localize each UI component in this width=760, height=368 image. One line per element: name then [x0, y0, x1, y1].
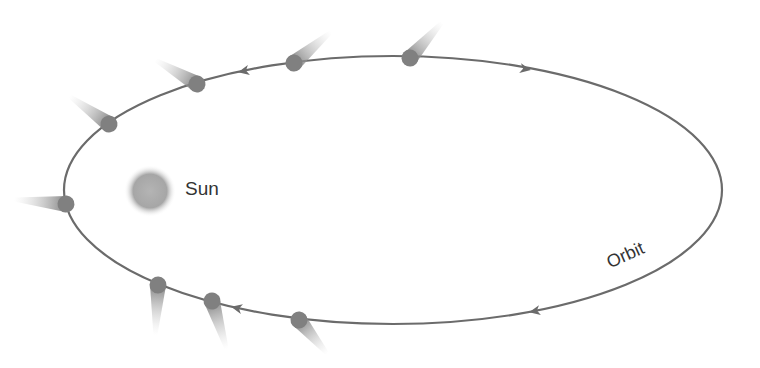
- comet-icon: [282, 26, 336, 75]
- orbit-direction-arrows: [230, 63, 541, 317]
- orbit-diagram: [0, 0, 760, 368]
- comet-icon: [65, 90, 121, 136]
- comet-icon: [13, 191, 75, 213]
- comet-icon: [398, 17, 448, 70]
- comet-icon: [287, 308, 334, 359]
- sun-label: Sun: [185, 178, 219, 200]
- comets: [13, 17, 448, 360]
- comet-icon: [201, 290, 234, 351]
- comet-icon: [151, 53, 208, 96]
- comet-icon: [147, 276, 167, 335]
- sun-icon: [124, 165, 176, 217]
